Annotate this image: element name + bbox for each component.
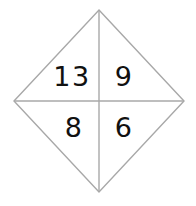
diamond-figure: 13 9 8 6 <box>0 0 196 206</box>
cell-value-bottom-left: 8 <box>65 114 84 141</box>
cell-value-top-right: 9 <box>115 63 134 90</box>
diamond-outline-and-dividers <box>0 0 196 206</box>
cell-value-top-left: 13 <box>53 63 90 90</box>
cell-value-bottom-right: 6 <box>115 114 134 141</box>
